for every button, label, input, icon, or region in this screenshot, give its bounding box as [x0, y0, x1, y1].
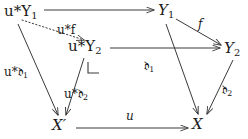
node-u-star-Y1-sub: 1 [31, 10, 37, 21]
node-Y2: Y2 [224, 41, 240, 58]
edge-label-f-base: f [198, 17, 202, 31]
node-Y1-base: Y [158, 1, 168, 19]
edge-label-d1-sub: 1 [149, 65, 154, 74]
node-Y1: Y1 [158, 3, 174, 20]
node-Y2-sub: 2 [234, 47, 240, 58]
edge-label-d2: 𝔡2 [222, 84, 232, 98]
node-Y1-sub: 1 [168, 9, 174, 20]
diagram-arrows [0, 0, 248, 139]
edge-label-u-star-d2: u*𝔡2 [64, 88, 88, 102]
node-X-base: X [192, 115, 203, 133]
edge-label-u-star-f: u*f [57, 24, 75, 36]
arrow-d1 [166, 24, 198, 114]
edge-label-u-star-d1: u*𝔡1 [4, 66, 28, 80]
node-X-prime: X′ [52, 118, 66, 133]
edge-label-d1: 𝔡1 [144, 60, 154, 74]
node-u-star-Y2: u*Y2 [68, 39, 102, 56]
node-X: X [192, 117, 203, 132]
node-u-star-Y2-sub: 2 [95, 45, 101, 56]
edge-label-u-star-f-base: u*f [57, 23, 75, 37]
node-X-prime-base: X′ [52, 116, 66, 134]
edge-label-f: f [198, 18, 202, 30]
edge-label-u-star-d1-sub: 1 [23, 71, 28, 80]
node-u-star-Y2-prefix: u*Y [68, 37, 95, 55]
node-u-star-Y1: u*Y1 [4, 4, 38, 21]
edge-label-u-base: u [126, 109, 134, 123]
node-u-star-Y1-prefix: u*Y [4, 2, 31, 20]
edge-label-d2-sub: 2 [227, 89, 232, 98]
commutative-diagram: u*Y1 Y1 u*Y2 Y2 X′ X u*f f u*𝔡1 u*𝔡2 𝔡1 … [0, 0, 248, 139]
edge-label-u-star-d1-base: u*𝔡 [4, 65, 23, 79]
edge-label-u-star-d2-sub: 2 [83, 93, 88, 102]
pullback-corner-marker [88, 62, 99, 73]
node-Y2-base: Y [224, 39, 234, 57]
edge-label-u-star-d2-base: u*𝔡 [64, 87, 83, 101]
edge-label-u: u [126, 110, 134, 122]
